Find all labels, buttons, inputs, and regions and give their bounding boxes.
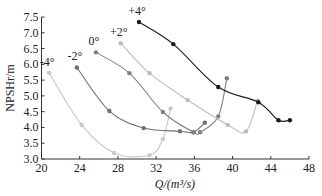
curve-label: 0° (89, 34, 100, 48)
data-point (288, 118, 292, 122)
data-point (168, 106, 172, 110)
y-tick-label: 6.0 (24, 57, 39, 71)
x-tick-label: 44 (265, 161, 277, 175)
x-tick-label: 32 (150, 161, 162, 175)
y-tick-label: 7.5 (24, 10, 39, 24)
data-point (216, 85, 220, 89)
data-point (256, 100, 260, 104)
data-point (191, 130, 195, 134)
x-tick-label: 28 (112, 161, 124, 175)
data-point (147, 71, 151, 75)
series-line (121, 43, 258, 133)
y-tick-label: 5.0 (24, 89, 39, 103)
data-point (137, 20, 141, 24)
data-point (244, 129, 248, 133)
data-point (161, 137, 165, 141)
data-point (178, 129, 182, 133)
data-point (112, 151, 116, 155)
data-point (75, 65, 79, 69)
x-axis-label: Q/(m³/s) (155, 177, 195, 191)
curve-label: -4° (40, 55, 55, 69)
curve-labels: -4°-2°0°+2°+4° (40, 4, 146, 69)
x-tick-label: 36 (188, 161, 200, 175)
data-point (203, 121, 207, 125)
data-point (127, 71, 131, 75)
data-point (47, 71, 51, 75)
data-point (94, 50, 98, 54)
y-tick-label: 6.5 (24, 42, 39, 56)
x-tick-label: 48 (303, 161, 315, 175)
data-point (198, 130, 202, 134)
y-tick-label: 4.5 (24, 105, 39, 119)
series-line (96, 52, 227, 134)
data-point (171, 42, 175, 46)
npsh-chart: 20242832364044483.03.54.04.55.05.56.06.5… (0, 0, 322, 196)
data-point (147, 153, 151, 157)
y-axis-label: NPSHr/m (3, 64, 17, 112)
data-point (276, 118, 280, 122)
y-tick-label: 7.0 (24, 26, 39, 40)
curve-label: -2° (67, 49, 82, 63)
y-tick-label: 5.5 (24, 73, 39, 87)
x-tick-label: 40 (227, 161, 239, 175)
curve-label: +2° (110, 25, 128, 39)
curves (47, 20, 292, 158)
data-point (225, 76, 229, 80)
y-tick-label: 4.0 (24, 120, 39, 134)
x-tick-label: 24 (74, 161, 86, 175)
data-point (142, 126, 146, 130)
axes: 20242832364044483.03.54.04.55.05.56.06.5… (24, 10, 316, 175)
series-line (139, 22, 290, 121)
y-tick-label: 3.5 (24, 136, 39, 150)
data-point (107, 109, 111, 113)
data-point (185, 98, 189, 102)
data-point (161, 110, 165, 114)
data-point (79, 123, 83, 127)
y-tick-label: 3.0 (24, 152, 39, 166)
data-point (226, 123, 230, 127)
curve-label: +4° (128, 4, 146, 18)
data-point (119, 41, 123, 45)
series-line (49, 73, 170, 157)
